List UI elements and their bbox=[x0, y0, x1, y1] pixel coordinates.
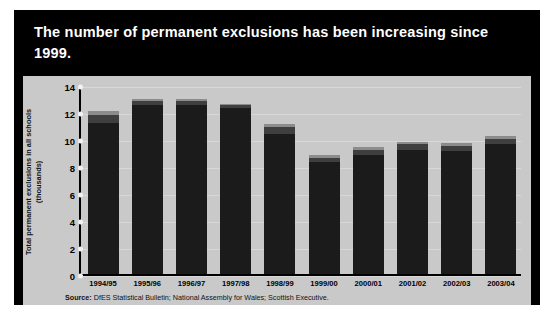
y-tick-label: 6 bbox=[70, 190, 75, 201]
bar-1999-00: 1999/00 bbox=[309, 155, 340, 274]
y-tick-label: 12 bbox=[64, 109, 75, 120]
x-tick-label: 1996/97 bbox=[178, 279, 205, 288]
x-tick-label: 2003/04 bbox=[487, 279, 514, 288]
bar-1997-98: 1997/98 bbox=[220, 104, 251, 274]
bar-segment-england bbox=[176, 105, 207, 274]
bar-1996-97: 1996/97 bbox=[176, 99, 207, 274]
x-tick-label: 1995/96 bbox=[134, 279, 161, 288]
y-tick-label: 0 bbox=[70, 271, 75, 282]
bar-segment-england bbox=[220, 108, 251, 274]
bar-2003-04: 2003/04 bbox=[485, 136, 516, 274]
bar-1998-99: 1998/99 bbox=[264, 124, 295, 274]
y-tick-label: 8 bbox=[70, 163, 75, 174]
plot-panel: Total permanent exclusions in all school… bbox=[23, 76, 531, 296]
bar-segment-england bbox=[309, 162, 340, 274]
x-tick-label: 2001/02 bbox=[399, 279, 426, 288]
bar-2002-03: 2002/03 bbox=[441, 143, 472, 274]
chart-figure: The number of permanent exclusions has b… bbox=[14, 10, 540, 305]
bar-segment-scotland bbox=[88, 115, 119, 123]
bar-segment-england bbox=[397, 150, 428, 274]
bar-2000-01: 2000/01 bbox=[353, 147, 384, 274]
plot-area: 02468101214 1994/951995/961996/971997/98… bbox=[79, 87, 521, 276]
bar-segment-england bbox=[132, 105, 163, 274]
chart-title: The number of permanent exclusions has b… bbox=[34, 22, 514, 63]
bar-segment-scotland bbox=[264, 127, 295, 134]
x-tick-label: 1999/00 bbox=[310, 279, 337, 288]
y-tick-dot bbox=[78, 274, 83, 279]
source-label: Source: bbox=[65, 293, 92, 302]
x-tick-label: 2000/01 bbox=[355, 279, 382, 288]
bar-1995-96: 1995/96 bbox=[132, 99, 163, 274]
source-text: DfES Statistical Bulletin; National Asse… bbox=[94, 293, 329, 302]
x-tick-label: 1997/98 bbox=[222, 279, 249, 288]
bar-segment-england bbox=[353, 155, 384, 274]
y-tick-label: 2 bbox=[70, 244, 75, 255]
x-tick-label: 2002/03 bbox=[443, 279, 470, 288]
y-tick-label: 14 bbox=[64, 82, 75, 93]
y-tick-label: 10 bbox=[64, 136, 75, 147]
bar-group: 1994/951995/961996/971997/981998/991999/… bbox=[81, 87, 521, 274]
x-tick-label: 1998/99 bbox=[266, 279, 293, 288]
source-note: Source: DfES Statistical Bulletin; Natio… bbox=[23, 290, 531, 305]
gridline bbox=[81, 276, 521, 277]
bar-segment-england bbox=[485, 144, 516, 274]
y-axis-label: Total permanent exclusions in all school… bbox=[27, 88, 41, 276]
bar-segment-england bbox=[441, 151, 472, 274]
bar-segment-england bbox=[88, 123, 119, 274]
y-tick-label: 4 bbox=[70, 217, 75, 228]
bar-2001-02: 2001/02 bbox=[397, 142, 428, 274]
bar-segment-england bbox=[264, 134, 295, 274]
x-tick-label: 1994/95 bbox=[89, 279, 116, 288]
bar-1994-95: 1994/95 bbox=[88, 111, 119, 274]
